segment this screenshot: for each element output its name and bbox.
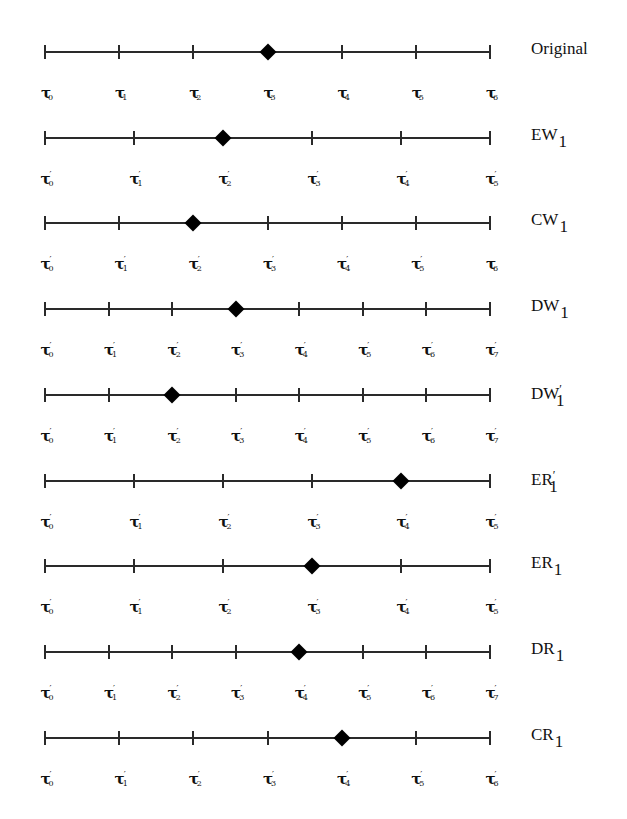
tick-label: τ′0 (40, 684, 53, 702)
tick-label: τ′3 (231, 427, 244, 445)
tick-label: τ′7 (485, 427, 498, 445)
row-label: DW1 (531, 296, 569, 323)
tick-label: τ5 (412, 84, 424, 102)
axis-line (45, 394, 490, 396)
tick-label: τ4 (338, 84, 350, 102)
tick-mark (267, 216, 269, 230)
row-label: ER1 (531, 553, 562, 580)
tick-label: τ′5 (485, 170, 498, 188)
tick-label: τ′2 (168, 684, 181, 702)
axis-line (45, 480, 490, 482)
timeline-diagram: τ0τ1τ2τ3τ4τ5τ6Originalτ′0τ′1τ′2τ′3τ′4τ′5… (0, 0, 627, 819)
tick-mark (133, 559, 135, 573)
tick-label: τ′0 (40, 255, 53, 273)
tick-mark (311, 131, 313, 145)
tick-label: τ′5 (358, 684, 371, 702)
tick-mark (171, 302, 173, 316)
tick-label: τ′4 (295, 684, 308, 702)
tick-label: τ6 (486, 84, 498, 102)
tick-mark (44, 45, 46, 59)
tick-label: τ′1 (129, 170, 142, 188)
timeline-row: τ′0τ′1τ′2τ′3τ′4τ′5EW1 (0, 137, 627, 217)
tick-label: τ′4 (295, 427, 308, 445)
tick-mark (108, 302, 110, 316)
tick-label: τ′2 (189, 255, 202, 273)
tick-mark (489, 216, 491, 230)
tick-mark (489, 388, 491, 402)
tick-mark (235, 645, 237, 659)
tick-label: τ6 (486, 255, 498, 273)
tick-label: τ′1 (115, 770, 128, 788)
tick-label: τ′2 (218, 170, 231, 188)
tick-label: τ′3 (263, 770, 276, 788)
tick-mark (311, 474, 313, 488)
tick-label: τ1 (115, 84, 127, 102)
axis-line (45, 651, 490, 653)
tick-label: τ′4 (337, 770, 350, 788)
tick-mark (425, 302, 427, 316)
row-label: DW′1 (531, 382, 564, 411)
diamond-marker-icon (291, 644, 308, 661)
tick-mark (415, 45, 417, 59)
diamond-marker-icon (304, 558, 321, 575)
tick-label: τ′5 (485, 513, 498, 531)
tick-mark (192, 731, 194, 745)
tick-mark (489, 45, 491, 59)
tick-mark (44, 559, 46, 573)
tick-label: τ′0 (40, 513, 53, 531)
tick-mark (341, 45, 343, 59)
tick-mark (171, 645, 173, 659)
tick-label: τ′5 (411, 255, 424, 273)
tick-mark (341, 216, 343, 230)
tick-label: τ′5 (358, 427, 371, 445)
tick-mark (133, 131, 135, 145)
tick-label: τ′6 (422, 427, 435, 445)
tick-mark (44, 302, 46, 316)
tick-label: τ′0 (40, 598, 53, 616)
tick-mark (489, 645, 491, 659)
tick-mark (489, 474, 491, 488)
tick-label: τ′4 (295, 341, 308, 359)
tick-label: τ′0 (40, 770, 53, 788)
tick-label: τ′4 (337, 255, 350, 273)
timeline-row: τ′0τ′1τ′2τ′3τ′4τ′5τ6CW1 (0, 222, 627, 302)
tick-mark (44, 131, 46, 145)
row-label: ER′1 (531, 468, 558, 497)
timeline-row: τ′0τ′1τ′2τ′3τ′4τ′5τ′6CR1 (0, 737, 627, 817)
tick-mark (489, 731, 491, 745)
diamond-marker-icon (185, 215, 202, 232)
tick-mark (489, 559, 491, 573)
tick-label: τ0 (41, 84, 53, 102)
tick-mark (118, 45, 120, 59)
tick-mark (133, 474, 135, 488)
axis-line (45, 565, 490, 567)
tick-label: τ′2 (218, 513, 231, 531)
tick-label: τ′6 (485, 770, 498, 788)
tick-mark (425, 645, 427, 659)
row-label: CW1 (531, 210, 568, 237)
tick-label: τ′4 (396, 170, 409, 188)
tick-mark (235, 388, 237, 402)
tick-mark (400, 559, 402, 573)
tick-label: τ′3 (307, 170, 320, 188)
diamond-marker-icon (227, 301, 244, 318)
tick-mark (489, 302, 491, 316)
tick-mark (44, 216, 46, 230)
tick-mark (192, 45, 194, 59)
tick-mark (362, 302, 364, 316)
tick-label: τ′1 (104, 684, 117, 702)
diamond-marker-icon (333, 730, 350, 747)
tick-label: τ′2 (168, 341, 181, 359)
timeline-row: τ′0τ′1τ′2τ′3τ′4τ′5ER1 (0, 565, 627, 645)
tick-label: τ′7 (485, 684, 498, 702)
tick-label: τ′1 (129, 598, 142, 616)
tick-label: τ′1 (104, 427, 117, 445)
axis-line (45, 308, 490, 310)
row-label: DR1 (531, 639, 564, 666)
tick-label: τ2 (189, 84, 201, 102)
diamond-marker-icon (393, 473, 410, 490)
tick-label: τ′3 (307, 598, 320, 616)
tick-label: τ′1 (129, 513, 142, 531)
diamond-marker-icon (164, 387, 181, 404)
tick-label: τ′3 (263, 255, 276, 273)
